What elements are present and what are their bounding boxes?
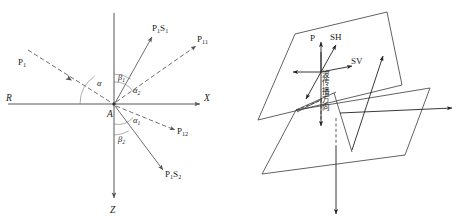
label-p-vector: P: [310, 33, 315, 43]
figure-canvas: P1 P1S1 P11 P12 P1S2 R X Z A α β1 α2 α1 …: [0, 0, 457, 224]
label-propagation-direction: 波传播方向: [321, 69, 330, 112]
upper-plane: [258, 12, 402, 120]
diagonal-arrow: [352, 56, 383, 150]
sh-vector-arrow: [321, 45, 336, 72]
label-transmitted-ps2: P1S2: [165, 169, 181, 180]
label-reflected-ps1: P1S1: [152, 23, 168, 34]
label-transmitted-p12: P12: [177, 126, 188, 137]
label-angle-beta2: β2: [117, 134, 125, 145]
label-r-axis: R: [5, 93, 12, 103]
label-sv-vector: SV: [351, 56, 363, 66]
horizontal-propagation-arrow: [340, 108, 452, 113]
label-incident-p1: P1: [18, 57, 26, 68]
figure-svg: P1 P1S1 P11 P12 P1S2 R X Z A α β1 α2 α1 …: [0, 0, 457, 224]
plane-connector-b: [334, 93, 352, 152]
label-x-axis: X: [203, 93, 211, 103]
label-angle-beta1: β1: [117, 72, 125, 83]
left-panel: P1 P1S1 P11 P12 P1S2 R X Z A α β1 α2 α1 …: [5, 13, 211, 215]
label-z-axis: Z: [110, 205, 116, 215]
label-origin-a: A: [106, 109, 113, 119]
label-sh-vector: SH: [330, 32, 342, 42]
reflected-p11-ray: [116, 46, 196, 102]
label-angle-alpha2: α2: [133, 85, 140, 96]
right-panel: P SH SV 波传播方向: [258, 12, 452, 214]
label-reflected-p11: P11: [197, 34, 208, 45]
sh-vector-arrow-opposite: [306, 72, 321, 99]
label-angle-alpha: α: [97, 78, 102, 88]
transmitted-p12-ray: [116, 106, 175, 130]
incident-p1-ray: [28, 50, 112, 103]
incident-p1-arrowhead: [65, 75, 73, 83]
arc-alpha1: [114, 118, 133, 125]
label-angle-alpha1: α1: [133, 115, 140, 126]
arc-alpha: [80, 76, 95, 104]
